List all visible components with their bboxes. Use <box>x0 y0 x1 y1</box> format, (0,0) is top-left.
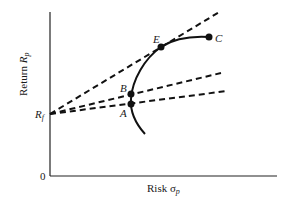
line-rf-a <box>50 91 227 114</box>
tangent-line-rf-e <box>50 11 221 114</box>
point-c <box>206 34 213 41</box>
origin-label: 0 <box>40 170 46 182</box>
point-a <box>128 101 135 108</box>
capital-allocation-chart: A B E C Rf 0 Risk σp Return Rp <box>0 0 293 202</box>
label-b: B <box>120 82 127 94</box>
y-axis-label: Return Rp <box>17 53 31 96</box>
x-axis-label: Risk σp <box>147 182 180 196</box>
label-c: C <box>215 32 223 44</box>
rf-label: Rf <box>34 108 46 122</box>
label-e: E <box>152 33 160 45</box>
label-a: A <box>119 107 127 119</box>
point-b <box>128 91 135 98</box>
